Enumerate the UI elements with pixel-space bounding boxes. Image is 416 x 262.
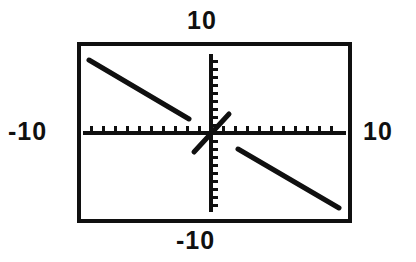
curve-segment-lower-right xyxy=(238,149,339,208)
x-max-label: 10 xyxy=(363,119,393,144)
plot-canvas xyxy=(77,42,352,223)
graph-figure: 10 -10 10 -10 xyxy=(0,0,416,262)
y-max-label: 10 xyxy=(187,8,217,33)
x-min-label: -10 xyxy=(8,119,47,144)
plot-viewport xyxy=(77,42,352,223)
y-min-label: -10 xyxy=(176,228,215,253)
curve-segment-upper-left xyxy=(89,60,189,119)
